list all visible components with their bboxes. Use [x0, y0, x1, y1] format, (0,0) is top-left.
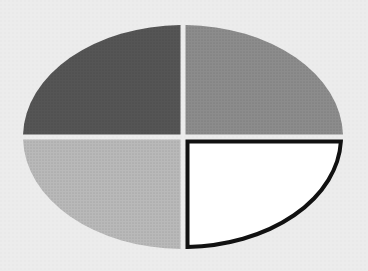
quadrant-ellipse-svg: [0, 0, 368, 271]
background-texture: [0, 0, 368, 271]
quadrant-ellipse-figure: [0, 0, 368, 271]
